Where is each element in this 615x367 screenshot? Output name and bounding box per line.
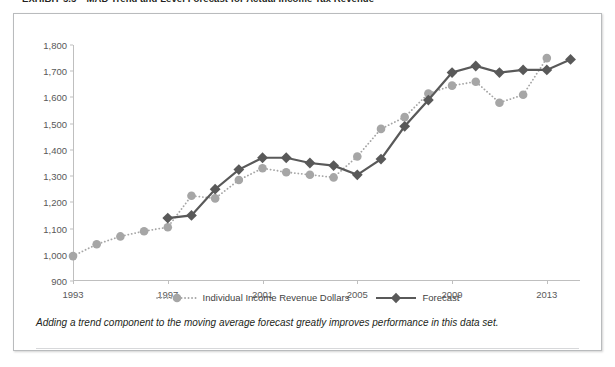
legend-label: Individual Income Revenue Dollars bbox=[203, 293, 350, 303]
data-point-diamond bbox=[257, 152, 268, 163]
data-point-circle bbox=[400, 113, 409, 122]
data-point-diamond bbox=[162, 213, 173, 224]
chart-series-actual bbox=[69, 54, 551, 261]
data-point-diamond bbox=[565, 54, 576, 65]
legend-entry[interactable]: Individual Income Revenue Dollars bbox=[156, 292, 350, 304]
data-point-circle bbox=[306, 171, 315, 180]
data-point-circle bbox=[187, 191, 196, 200]
data-point-circle bbox=[140, 227, 149, 236]
legend-circle-marker-icon bbox=[172, 294, 181, 303]
y-axis-tick-label: 1,000 bbox=[27, 249, 67, 260]
y-axis-tick-label: 1,700 bbox=[27, 66, 67, 77]
page-title: MAD Trend and Level Forecast for Actual … bbox=[86, 0, 374, 4]
y-axis-tick-label: 1,800 bbox=[27, 40, 67, 51]
data-point-circle bbox=[377, 125, 386, 134]
data-point-circle bbox=[235, 176, 244, 185]
data-point-diamond bbox=[281, 152, 292, 163]
data-point-circle bbox=[448, 81, 457, 90]
data-point-circle bbox=[211, 194, 220, 203]
data-point-diamond bbox=[305, 158, 316, 169]
series-line bbox=[168, 59, 571, 218]
legend-dotted-line-icon bbox=[156, 292, 198, 304]
exhibit-title-line: EXHIBIT 5.5MAD Trend and Level Forecast … bbox=[22, 0, 582, 7]
exhibit-label: EXHIBIT 5.5 bbox=[22, 0, 76, 4]
series-line bbox=[73, 58, 547, 256]
y-axis-tick-label: 1,400 bbox=[27, 144, 67, 155]
chart-plot-area: 1,8001,7001,6001,5001,4001,3001,2001,100… bbox=[73, 45, 580, 281]
data-point-circle bbox=[163, 223, 172, 232]
legend-label: Forecast bbox=[422, 293, 459, 303]
data-point-circle bbox=[69, 252, 78, 261]
data-point-circle bbox=[495, 98, 504, 107]
chart-series-forecast bbox=[162, 54, 576, 223]
data-point-diamond bbox=[328, 160, 339, 171]
exhibit-page: EXHIBIT 5.5MAD Trend and Level Forecast … bbox=[0, 0, 615, 367]
data-point-circle bbox=[543, 54, 552, 63]
y-axis-tick-label: 1,600 bbox=[27, 92, 67, 103]
legend-solid-line-icon bbox=[375, 292, 417, 304]
data-point-circle bbox=[282, 168, 291, 177]
y-axis-tick-label: 900 bbox=[27, 276, 67, 287]
data-point-circle bbox=[258, 164, 267, 173]
exhibit-caption: Adding a trend component to the moving a… bbox=[36, 317, 579, 330]
x-axis-tick-mark bbox=[357, 281, 358, 284]
chart-legend: Individual Income Revenue DollarsForecas… bbox=[14, 292, 601, 304]
x-axis-tick-mark bbox=[168, 281, 169, 284]
data-point-circle bbox=[329, 173, 338, 182]
x-axis-tick-mark bbox=[263, 281, 264, 284]
y-axis-tick-label: 1,200 bbox=[27, 197, 67, 208]
x-axis-tick-mark bbox=[547, 281, 548, 284]
data-point-circle bbox=[92, 240, 101, 249]
caption-container: Adding a trend component to the moving a… bbox=[36, 317, 579, 349]
data-point-diamond bbox=[470, 61, 481, 72]
chart-series-layer bbox=[73, 45, 580, 281]
y-axis-tick-label: 1,500 bbox=[27, 118, 67, 129]
x-axis-tick-mark bbox=[73, 281, 74, 284]
data-point-diamond bbox=[518, 65, 529, 76]
exhibit-frame: 1,8001,7001,6001,5001,4001,3001,2001,100… bbox=[13, 13, 602, 351]
data-point-circle bbox=[116, 232, 125, 241]
x-axis-tick-mark bbox=[452, 281, 453, 284]
data-point-diamond bbox=[541, 65, 552, 76]
y-axis-tick-label: 1,100 bbox=[27, 223, 67, 234]
data-point-circle bbox=[519, 91, 528, 100]
legend-diamond-marker-icon bbox=[391, 293, 401, 304]
data-point-circle bbox=[353, 152, 362, 161]
legend-entry[interactable]: Forecast bbox=[375, 292, 459, 304]
y-axis-tick-label: 1,300 bbox=[27, 171, 67, 182]
data-point-circle bbox=[471, 77, 480, 86]
data-point-diamond bbox=[494, 67, 505, 78]
